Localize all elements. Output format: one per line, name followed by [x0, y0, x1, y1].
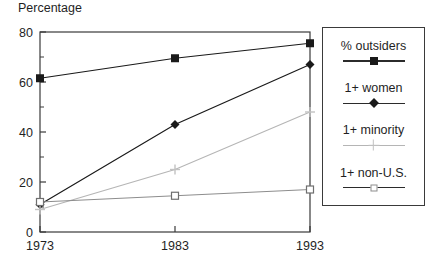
series-lines: [35, 39, 315, 214]
filled-diamond-marker-icon: [369, 98, 379, 108]
legend-label-minority: 1+ minority: [343, 123, 404, 137]
legend-key-women: [343, 97, 405, 110]
legend-box: % outsiders 1+ women 1+ minority 1+ non-…: [322, 27, 425, 206]
legend-label-women: 1+ women: [344, 81, 402, 95]
chart-page: Percentage 020406080197319831993 % outsi…: [0, 0, 429, 263]
svg-text:1993: 1993: [296, 239, 324, 253]
svg-text:40: 40: [19, 126, 33, 140]
filled-square-marker-icon: [370, 57, 378, 65]
legend-key-outsiders: [343, 54, 405, 67]
svg-text:0: 0: [26, 226, 33, 240]
legend-label-outsiders: % outsiders: [341, 39, 406, 53]
svg-text:1983: 1983: [161, 239, 189, 253]
svg-text:80: 80: [19, 26, 33, 40]
svg-text:1973: 1973: [26, 239, 54, 253]
faint-plus-marker-icon: [368, 140, 379, 151]
open-square-marker-icon: [370, 184, 377, 191]
legend-entry-non-us[interactable]: 1+ non-U.S.: [323, 166, 424, 194]
legend-entry-outsiders[interactable]: % outsiders: [323, 39, 424, 67]
legend-label-non-us: 1+ non-U.S.: [340, 166, 407, 180]
legend-key-non-us: [343, 181, 405, 194]
svg-text:20: 20: [19, 176, 33, 190]
legend-entry-women[interactable]: 1+ women: [323, 81, 424, 109]
legend-entry-minority[interactable]: 1+ minority: [323, 123, 424, 151]
legend-key-minority: [343, 139, 405, 152]
svg-text:60: 60: [19, 76, 33, 90]
